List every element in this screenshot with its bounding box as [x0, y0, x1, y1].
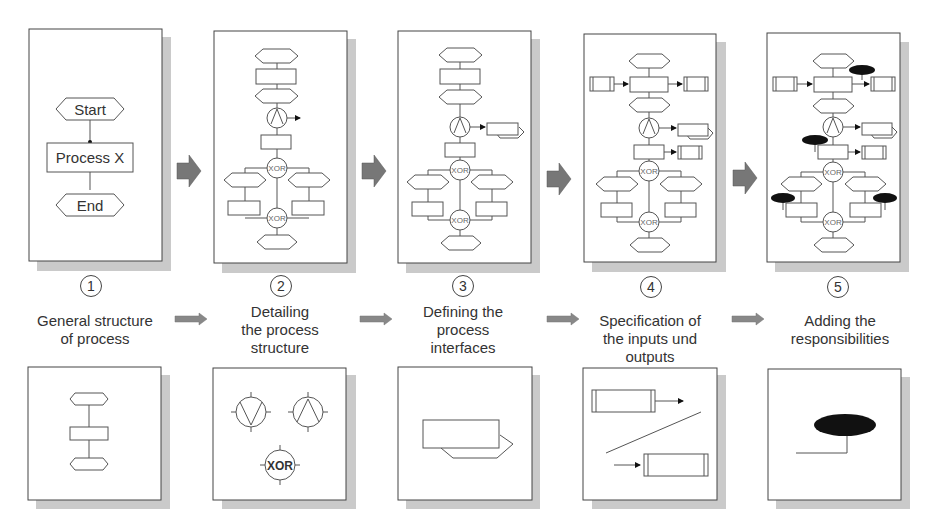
- panel-4-bottom: [583, 368, 726, 509]
- panel-2-top: [214, 31, 356, 273]
- step-arrow-4: [733, 162, 757, 194]
- step-label-1: General structure of process: [20, 312, 170, 348]
- panel-1-bottom: [28, 367, 170, 509]
- organizational-unit-icon: [814, 414, 876, 436]
- step-arrow-1: [177, 155, 201, 187]
- start-event: Start: [74, 101, 107, 118]
- panel-3-top: [398, 31, 540, 273]
- panel-2-bottom: XOR: [213, 368, 356, 509]
- label-arrow-2: [360, 313, 392, 325]
- step-arrow-3: [547, 163, 571, 195]
- panel-3-bottom: [398, 367, 540, 509]
- label-arrow-1: [175, 313, 207, 325]
- label-arrow-4: [732, 313, 764, 325]
- svg-text:XOR: XOR: [267, 459, 293, 473]
- step-label-5: Adding the responsibilities: [765, 312, 915, 348]
- step-number-1: 1: [80, 275, 102, 297]
- panel-4-top: [584, 34, 726, 272]
- panel-5-bottom: [768, 369, 910, 509]
- step-number-3: 3: [452, 275, 474, 297]
- step-number-4: 4: [640, 276, 662, 298]
- step-number-5: 5: [827, 276, 849, 298]
- step-arrow-2: [362, 155, 386, 187]
- step-number-2: 2: [270, 275, 292, 297]
- step-label-2: Detailing the process structure: [210, 303, 350, 357]
- step-label-4: Specification of the inputs und outputs: [575, 312, 725, 366]
- panel-1-top: Start Process X End: [29, 29, 171, 271]
- process-modeling-diagram: XOR Start Process X End: [0, 0, 935, 529]
- process-function: Process X: [56, 149, 124, 166]
- end-event: End: [77, 197, 104, 214]
- panel-5-top: [767, 33, 909, 272]
- step-label-3: Defining the process interfaces: [393, 303, 533, 357]
